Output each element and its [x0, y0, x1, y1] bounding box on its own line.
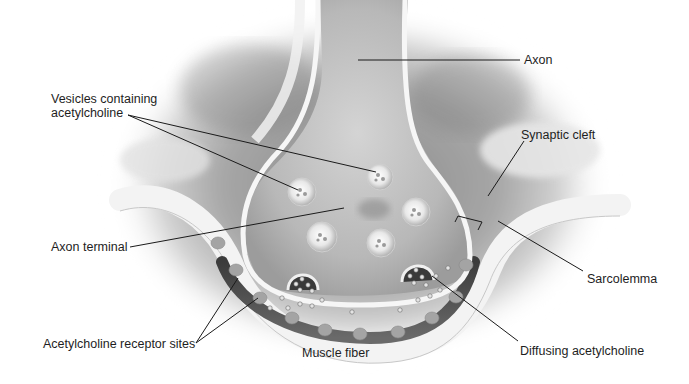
label-axon-terminal: Axon terminal	[51, 240, 127, 255]
diagram-illustration	[0, 0, 689, 384]
label-sarcolemma: Sarcolemma	[587, 272, 657, 287]
label-vesicles-line2: acetylcholine	[51, 106, 123, 121]
label-vesicles-line1: Vesicles containing	[51, 92, 157, 107]
label-axon: Axon	[524, 53, 553, 68]
label-synaptic-cleft: Synaptic cleft	[521, 128, 595, 143]
label-receptor-sites: Acetylcholine receptor sites	[43, 337, 195, 352]
label-muscle-fiber: Muscle fiber	[302, 346, 369, 361]
label-diffusing-acetylcholine: Diffusing acetylcholine	[520, 344, 644, 359]
neuromuscular-junction-diagram: Axon Vesicles containing acetylcholine S…	[0, 0, 689, 384]
